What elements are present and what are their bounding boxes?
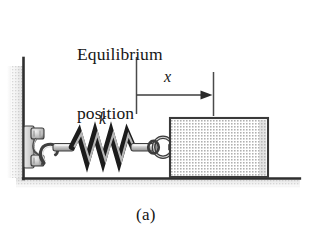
displacement-label: x [164,68,171,86]
figure-caption: (a) [136,205,156,224]
title-line-1: Equilibrium [77,45,163,65]
block-mass [170,118,268,177]
physics-figure: Equilibrium position x k (a) [0,0,312,241]
wall-shadow [7,66,23,178]
equilibrium-position-title: Equilibrium position [77,6,163,163]
spring-constant-label: k [99,110,106,128]
bracket-bolt-upper [31,128,44,139]
title-line-2: position [77,104,163,124]
